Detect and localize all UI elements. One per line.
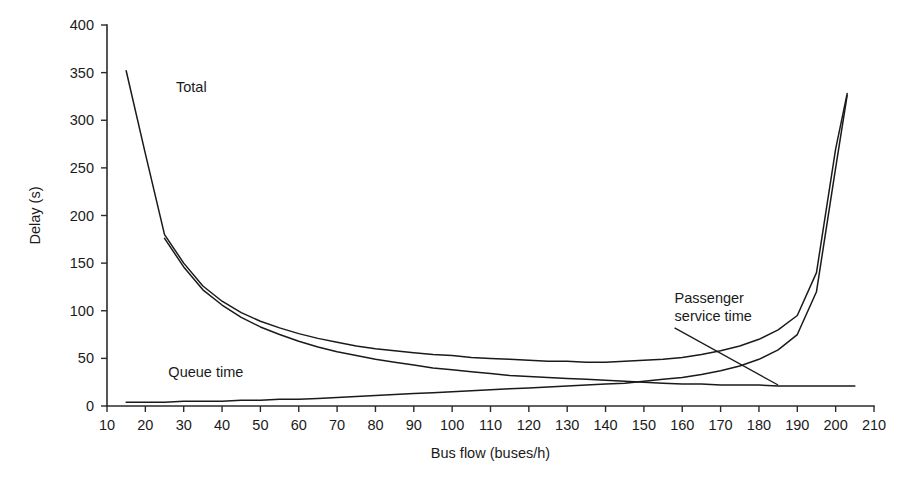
x-tick-label: 140 [593,417,617,433]
series-queue-time [126,95,847,402]
y-tick-label: 350 [70,65,94,81]
passenger-service-time-label: Passengerservice time [675,290,752,324]
x-tick-label: 170 [708,417,732,433]
x-tick-label: 130 [555,417,579,433]
x-axis-title: Bus flow (buses/h) [431,445,550,461]
chart-container: 050100150200250300350400 102030405060708… [0,0,914,481]
total-label: Total [176,79,207,95]
series-group [126,71,855,402]
y-axis-ticks [101,25,107,406]
axes-group [101,25,874,412]
y-tick-label: 0 [86,398,94,414]
x-axis-tick-labels: 1020304050607080901001101201301401501601… [99,417,886,433]
x-tick-label: 40 [214,417,230,433]
y-tick-label: 50 [78,350,94,366]
x-tick-label: 90 [406,417,422,433]
x-tick-label: 60 [291,417,307,433]
queue-time-label: Queue time [168,364,243,380]
x-tick-label: 80 [367,417,383,433]
x-tick-label: 10 [99,417,115,433]
x-tick-label: 70 [329,417,345,433]
x-tick-label: 120 [517,417,541,433]
x-tick-label: 30 [176,417,192,433]
y-tick-label: 100 [70,303,94,319]
y-tick-label: 250 [70,160,94,176]
delay-vs-busflow-line-chart: 050100150200250300350400 102030405060708… [0,0,914,481]
x-tick-label: 50 [252,417,268,433]
y-axis-title: Delay (s) [27,186,43,244]
x-tick-label: 150 [632,417,656,433]
y-tick-label: 200 [70,208,94,224]
x-tick-label: 100 [440,417,464,433]
y-tick-label: 300 [70,112,94,128]
y-axis-tick-labels: 050100150200250300350400 [70,17,94,414]
annotations-group: TotalQueue timePassengerservice time [168,79,778,385]
y-tick-label: 150 [70,255,94,271]
x-tick-label: 200 [824,417,848,433]
x-tick-label: 20 [137,417,153,433]
x-tick-label: 190 [785,417,809,433]
x-tick-label: 160 [670,417,694,433]
x-tick-label: 110 [479,417,502,433]
x-axis-ticks [107,406,874,412]
x-tick-label: 210 [862,417,886,433]
x-tick-label: 180 [747,417,771,433]
y-tick-label: 400 [70,17,94,33]
